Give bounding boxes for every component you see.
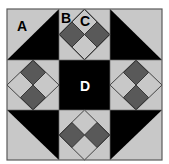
label-b: B xyxy=(61,10,71,26)
label-a: A xyxy=(17,18,27,34)
label-c: C xyxy=(80,13,90,29)
label-d: D xyxy=(80,78,90,94)
quilt-block-diagram: A B C D xyxy=(0,0,169,164)
